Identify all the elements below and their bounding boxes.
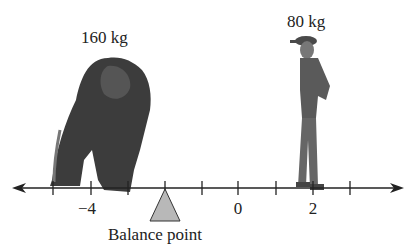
number-line-graphic bbox=[0, 0, 416, 251]
gorilla-illustration bbox=[50, 58, 151, 193]
balance-point-label: Balance point bbox=[108, 226, 202, 243]
tick-label-neg4: −4 bbox=[78, 200, 96, 217]
fulcrum-triangle bbox=[150, 189, 180, 221]
person-mass-label: 80 kg bbox=[287, 13, 325, 30]
tick-label-0: 0 bbox=[234, 200, 243, 217]
gorilla-mass-label: 160 kg bbox=[81, 29, 128, 46]
balance-diagram: 160 kg 80 kg −4 0 2 Balance point bbox=[0, 0, 416, 251]
tick-label-2: 2 bbox=[309, 200, 318, 217]
person-illustration bbox=[290, 36, 330, 190]
